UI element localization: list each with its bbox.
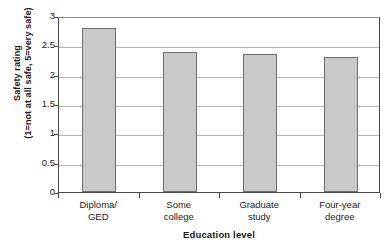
- x-tick-label-line: Some: [139, 199, 220, 211]
- x-tick-label: Somecollege: [139, 199, 220, 223]
- x-tick-label: Graduatestudy: [219, 199, 300, 223]
- y-tick-label: 2.5: [0, 40, 55, 50]
- x-tick-label-line: degree: [300, 211, 381, 223]
- y-tick-label: 1: [0, 128, 55, 138]
- bars-layer: [59, 18, 379, 192]
- bar[interactable]: [82, 28, 116, 192]
- x-tick-mark: [58, 193, 59, 198]
- x-tick-mark: [219, 193, 220, 198]
- x-tick-label-line: Four-year: [300, 199, 381, 211]
- x-tick-label: Diploma/GED: [58, 199, 139, 223]
- x-tick-label-line: GED: [58, 211, 139, 223]
- x-tick-mark: [380, 193, 381, 198]
- plot-area: [58, 17, 380, 193]
- x-tick-label-line: study: [219, 211, 300, 223]
- bar-chart: Safety rating (1=not at all safe, 5=very…: [0, 0, 387, 247]
- x-tick-label-line: Diploma/: [58, 199, 139, 211]
- x-tick-label-line: Graduate: [219, 199, 300, 211]
- y-tick-label: 0: [0, 187, 55, 197]
- y-tick-label: 2: [0, 70, 55, 80]
- bar[interactable]: [243, 54, 277, 192]
- x-axis-title: Education level: [58, 229, 380, 240]
- x-tick-mark: [139, 193, 140, 198]
- y-tick-label: 3: [0, 11, 55, 21]
- y-tick-label: 1.5: [0, 99, 55, 109]
- x-tick-label-line: college: [139, 211, 220, 223]
- x-tick-label: Four-yeardegree: [300, 199, 381, 223]
- x-axis-category-labels: Diploma/GEDSomecollegeGraduatestudyFour-…: [58, 199, 380, 229]
- bar[interactable]: [324, 57, 358, 192]
- bar[interactable]: [163, 52, 197, 192]
- y-tick-label: 0.5: [0, 158, 55, 168]
- x-tick-mark: [300, 193, 301, 198]
